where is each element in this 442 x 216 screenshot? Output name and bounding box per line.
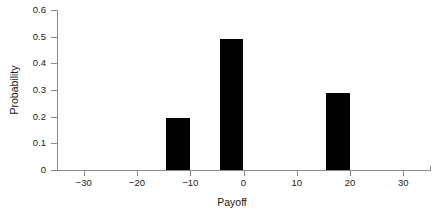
y-tick-label: 0.5	[33, 32, 46, 42]
x-tick-label: −30	[64, 178, 104, 188]
x-tick-label: 20	[330, 178, 370, 188]
y-tick-label: 0.6	[33, 5, 46, 15]
y-tick-mark	[51, 10, 57, 11]
bar	[166, 118, 190, 170]
x-tick-mark	[84, 170, 85, 176]
x-tick-mark	[297, 170, 298, 176]
y-axis-line	[57, 10, 58, 171]
y-tick-mark	[51, 117, 57, 118]
x-tick-label: 30	[383, 178, 423, 188]
y-tick-mark	[51, 37, 57, 38]
x-tick-label: −20	[117, 178, 157, 188]
y-tick-mark	[51, 90, 57, 91]
x-tick-mark	[244, 170, 245, 176]
bar	[220, 39, 244, 170]
y-tick-mark	[51, 143, 57, 144]
x-tick-label: 0	[224, 178, 264, 188]
y-tick-mark	[51, 63, 57, 64]
x-axis-right-cap	[430, 166, 431, 171]
x-axis-title: Payoff	[0, 196, 442, 208]
y-tick-label: 0.4	[33, 58, 46, 68]
plot-area: 00.10.20.30.40.50.6 −30−20−100102030 Pro…	[0, 0, 442, 216]
x-tick-mark	[403, 170, 404, 176]
y-tick-label: 0	[41, 165, 46, 175]
x-axis-title-label: Payoff	[217, 196, 247, 208]
y-axis-title-label: Probability	[8, 65, 20, 114]
y-tick-label: 0.2	[33, 112, 46, 122]
y-tick-label: 0.1	[33, 138, 46, 148]
x-tick-mark	[137, 170, 138, 176]
y-axis-title: Probability	[6, 0, 22, 180]
y-tick-mark	[51, 170, 57, 171]
x-axis-left-cap	[57, 166, 58, 171]
bar-chart: 00.10.20.30.40.50.6 −30−20−100102030 Pro…	[0, 0, 442, 216]
x-tick-label: −10	[170, 178, 210, 188]
x-tick-mark	[190, 170, 191, 176]
x-tick-label: 10	[277, 178, 317, 188]
bar	[326, 93, 350, 170]
y-tick-label: 0.3	[33, 85, 46, 95]
x-tick-mark	[350, 170, 351, 176]
